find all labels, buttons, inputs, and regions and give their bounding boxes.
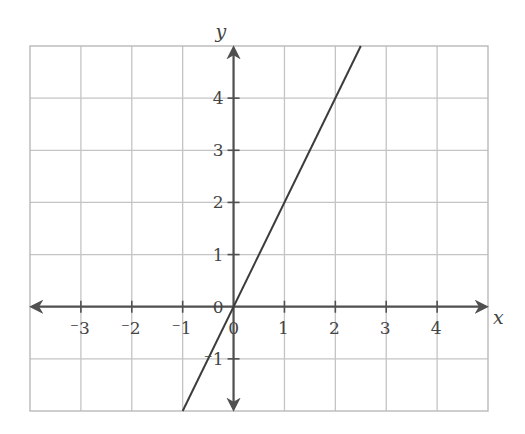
- x-tick-label: 2: [329, 318, 340, 338]
- x-tick-label: 1: [278, 318, 289, 338]
- x-tick-label: ⁻3: [70, 318, 90, 338]
- x-tick-label: ⁻2: [121, 318, 141, 338]
- grid-border: [30, 46, 488, 411]
- y-tick-label: 4: [213, 88, 224, 108]
- y-tick-label: 0: [213, 297, 224, 317]
- y-tick-label: 2: [213, 192, 224, 212]
- tick-labels: ⁻3⁻2⁻10123443210⁻1xy: [70, 20, 504, 369]
- y-axis-label: y: [215, 20, 227, 42]
- y-tick-label: 3: [213, 140, 224, 160]
- x-axis-label: x: [493, 306, 504, 328]
- x-tick-label: 0: [228, 318, 239, 338]
- y-tick-label: 1: [213, 245, 224, 265]
- coordinate-plane: ⁻3⁻2⁻10123443210⁻1xy: [0, 0, 525, 434]
- axes: [32, 48, 486, 409]
- y-tick-label: ⁻1: [204, 349, 224, 369]
- x-tick-label: ⁻1: [172, 318, 192, 338]
- x-tick-label: 4: [431, 318, 442, 338]
- grid: [30, 46, 488, 411]
- x-tick-label: 3: [380, 318, 391, 338]
